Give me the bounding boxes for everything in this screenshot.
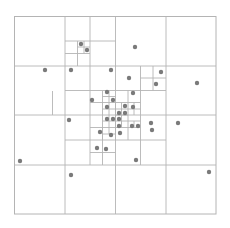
data-point (90, 98, 94, 102)
data-point (105, 117, 109, 121)
data-point (43, 68, 47, 72)
data-point (18, 159, 22, 163)
data-point (67, 118, 71, 122)
data-point (98, 130, 102, 134)
data-points (18, 42, 211, 177)
quadtree-canvas (0, 0, 230, 228)
data-point (104, 147, 108, 151)
data-point (79, 42, 83, 46)
data-point (69, 173, 73, 177)
data-point (117, 111, 121, 115)
data-point (154, 82, 158, 86)
data-point (85, 48, 89, 52)
data-point (159, 70, 163, 74)
data-point (109, 133, 113, 137)
data-point (123, 104, 127, 108)
data-point (131, 91, 135, 95)
data-point (69, 68, 73, 72)
data-point (127, 76, 131, 80)
data-point (117, 124, 121, 128)
subdivision-lines (15, 17, 217, 215)
data-point (123, 111, 127, 115)
data-point (133, 45, 137, 49)
data-point (105, 105, 109, 109)
data-point (95, 146, 99, 150)
quadtree-diagram (0, 0, 230, 228)
data-point (207, 170, 211, 174)
data-point (150, 128, 154, 132)
data-point (111, 117, 115, 121)
data-point (118, 131, 122, 135)
data-point (149, 121, 153, 125)
data-point (176, 121, 180, 125)
data-point (111, 98, 115, 102)
data-point (130, 124, 134, 128)
data-point (105, 90, 109, 94)
data-point (134, 158, 138, 162)
data-point (109, 68, 113, 72)
data-point (195, 81, 199, 85)
data-point (117, 117, 121, 121)
data-point (136, 124, 140, 128)
data-point (131, 105, 135, 109)
